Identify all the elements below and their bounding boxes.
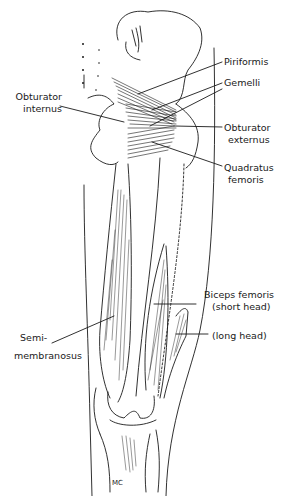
label-biceps-femoris-line1: Biceps femoris (204, 289, 274, 300)
thigh-muscle-illustration (0, 0, 291, 496)
label-piriformis: Piriformis (224, 56, 268, 67)
label-obturator-internus-line1: Obturator (8, 91, 62, 102)
label-quadratus-femoris-line2: femoris (228, 174, 264, 185)
label-semimembranosus-line1: Semi- (20, 332, 47, 343)
label-obturator-externus-line2: externus (228, 134, 270, 145)
label-obturator-internus-line2: internus (8, 103, 62, 114)
artist-signature: MC (112, 478, 123, 489)
label-long-head: (long head) (212, 330, 267, 341)
label-gemelli: Gemelli (224, 77, 260, 88)
label-semimembranosus-line2: membranosus (14, 350, 82, 361)
label-quadratus-femoris-line1: Quadratus (224, 162, 274, 173)
label-biceps-femoris-line2: (short head) (212, 301, 271, 312)
label-obturator-externus-line1: Obturator (224, 122, 270, 133)
anatomy-figure: Piriformis Gemelli Obturator internus Ob… (0, 0, 291, 496)
